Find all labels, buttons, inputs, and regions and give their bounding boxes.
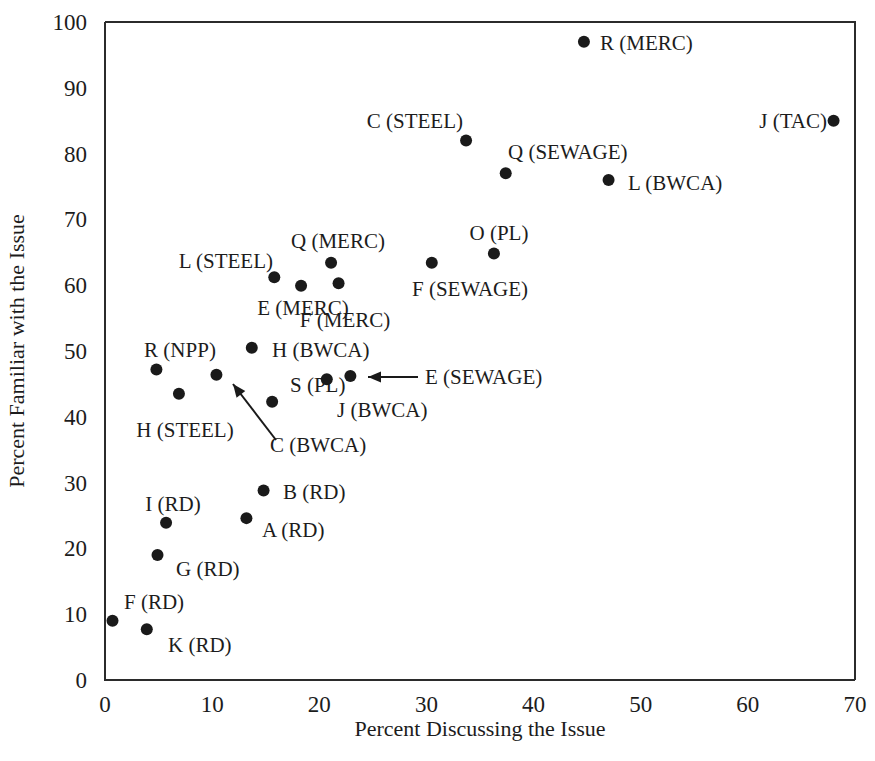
data-point-marker[interactable] [603, 174, 615, 186]
data-point-marker[interactable] [173, 388, 185, 400]
x-tick-label: 70 [844, 692, 867, 717]
y-tick-label: 0 [76, 668, 88, 693]
y-tick-label: 10 [64, 602, 87, 627]
data-point-marker[interactable] [325, 257, 337, 269]
data-point-marker[interactable] [488, 248, 500, 260]
y-tick-label: 60 [64, 273, 87, 298]
data-point-label: Q (MERC) [291, 229, 385, 253]
data-point-label: S (PL) [290, 373, 345, 397]
data-point-label: F (MERC) [300, 308, 390, 332]
x-axis-title: Percent Discussing the Issue [354, 716, 605, 741]
x-tick-label: 60 [736, 692, 759, 717]
x-tick-label: 50 [629, 692, 652, 717]
data-point-marker[interactable] [266, 396, 278, 408]
data-point-label: O (PL) [470, 221, 529, 245]
data-point-label: K (RD) [168, 633, 232, 657]
data-point-label: F (RD) [124, 590, 184, 614]
y-tick-label: 40 [64, 405, 87, 430]
data-point-marker[interactable] [210, 369, 222, 381]
data-point-label: A (RD) [262, 518, 324, 542]
data-point-label: F (SEWAGE) [412, 277, 528, 301]
data-point-marker[interactable] [295, 280, 307, 292]
y-tick-label: 90 [64, 76, 87, 101]
data-point-marker[interactable] [500, 167, 512, 179]
x-tick-label: 30 [415, 692, 438, 717]
x-tick-label: 10 [201, 692, 224, 717]
x-tick-label: 0 [99, 692, 111, 717]
data-point-label: Q (SEWAGE) [508, 140, 628, 164]
y-axis-title: Percent Familiar with the Issue [4, 214, 29, 488]
data-point-marker[interactable] [333, 277, 345, 289]
scatter-plot-figure: 0102030405060708090100010203040506070Per… [0, 0, 875, 761]
data-point-marker[interactable] [321, 373, 333, 385]
data-point-marker[interactable] [828, 115, 840, 127]
y-tick-label: 100 [53, 10, 88, 35]
data-point-label: J (BWCA) [337, 398, 427, 422]
data-point-label: I (RD) [145, 492, 200, 516]
data-point-marker[interactable] [578, 36, 590, 48]
data-point-label: B (RD) [283, 480, 345, 504]
data-point-label: C (BWCA) [270, 433, 366, 457]
data-point-label: R (MERC) [600, 31, 693, 55]
data-point-label: L (BWCA) [628, 171, 722, 195]
x-tick-label: 20 [308, 692, 331, 717]
data-point-marker[interactable] [240, 512, 252, 524]
y-tick-label: 20 [64, 536, 87, 561]
data-point-label: H (STEEL) [136, 418, 233, 442]
data-point-label: J (TAC) [759, 109, 827, 133]
data-point-label: H (BWCA) [272, 338, 369, 362]
data-point-marker[interactable] [426, 257, 438, 269]
data-point-label: R (NPP) [144, 338, 216, 362]
data-point-marker[interactable] [258, 484, 270, 496]
data-point-marker[interactable] [344, 370, 356, 382]
data-point-marker[interactable] [107, 615, 119, 627]
data-point-marker[interactable] [150, 363, 162, 375]
data-point-marker[interactable] [268, 271, 280, 283]
y-tick-label: 30 [64, 471, 87, 496]
data-point-label: G (RD) [176, 557, 240, 581]
axis-frame-top-right [105, 22, 855, 680]
x-tick-label: 40 [522, 692, 545, 717]
data-point-label: E (SEWAGE) [425, 365, 542, 389]
e-sewage-arrow-head [368, 372, 381, 383]
axis-spines [105, 22, 855, 680]
y-tick-label: 70 [64, 207, 87, 232]
plot-canvas: 0102030405060708090100010203040506070Per… [0, 0, 875, 761]
data-point-marker[interactable] [152, 549, 164, 561]
data-point-marker[interactable] [460, 134, 472, 146]
data-point-marker[interactable] [160, 517, 172, 529]
y-tick-label: 50 [64, 339, 87, 364]
data-point-marker[interactable] [141, 623, 153, 635]
y-tick-label: 80 [64, 142, 87, 167]
c-bwca-arrow-head [233, 384, 245, 398]
data-point-marker[interactable] [246, 342, 258, 354]
data-point-label: C (STEEL) [367, 109, 463, 133]
data-point-label: L (STEEL) [179, 249, 273, 273]
